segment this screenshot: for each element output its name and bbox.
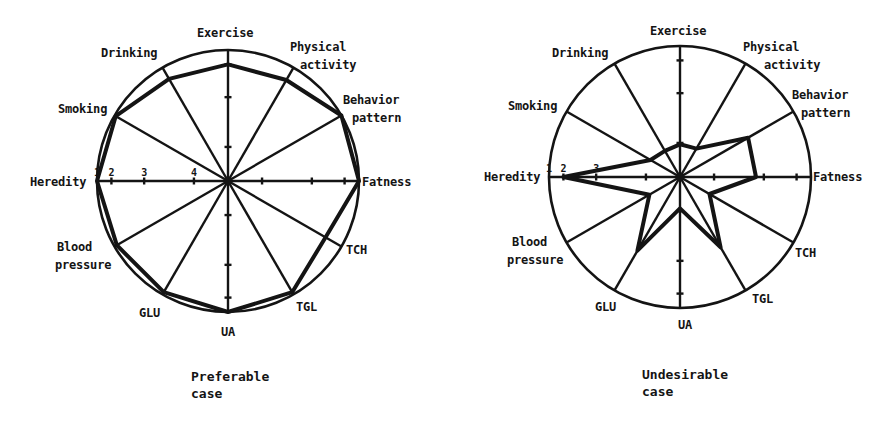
axis-label: TGL [296, 300, 317, 314]
spoke-behavior-pattern [228, 116, 341, 182]
axis-label-line-2: pattern [801, 106, 850, 120]
spoke-smoking [115, 116, 228, 182]
center-hub [676, 173, 685, 182]
axis-label: Behavior [343, 93, 399, 107]
axis-label: Physical [290, 40, 346, 54]
scale-tick-label: 4 [191, 167, 197, 178]
caption-line-2: case [642, 384, 673, 399]
scale-tick-label: 2 [560, 163, 566, 174]
caption-undesirable: Undesirable case [642, 367, 728, 399]
axis-label: Heredity [484, 170, 540, 184]
axis-label: Fatness [813, 170, 862, 184]
axis-label-line-2: activity [300, 58, 356, 72]
data-polygon [563, 138, 756, 251]
axis-label: Exercise [197, 26, 253, 40]
axis-label-line-2: pattern [352, 111, 401, 125]
spoke-blood-pressure [567, 177, 680, 243]
caption-line-1: Undesirable [642, 367, 728, 382]
axis-label: Blood [512, 235, 547, 249]
scale-tick-label: 3 [141, 167, 147, 178]
spoke-tgl [228, 181, 294, 294]
caption-line-1: Preferable [191, 369, 269, 384]
axis-label: TCH [346, 243, 367, 257]
caption-line-2: case [191, 386, 222, 401]
axis-label-line-2: pressure [507, 253, 563, 267]
axis-label: GLU [595, 300, 616, 314]
spoke-drinking [163, 68, 229, 181]
radar-chart-undesirable: 123ExercisePhysicalactivityBehaviorpatte… [484, 24, 862, 332]
spoke-physical-activity [680, 64, 746, 177]
spoke-glu [163, 181, 229, 294]
scale-tick-label: 1 [546, 163, 552, 174]
axis-label: Blood [57, 240, 92, 254]
center-hub [224, 177, 233, 186]
axis-label: Heredity [30, 175, 86, 189]
radar-chart-figure: 1234ExercisePhysicalactivityBehaviorpatt… [0, 0, 888, 423]
axis-label-line-2: activity [764, 58, 820, 72]
spoke-blood-pressure [115, 181, 228, 247]
axis-label: Behavior [792, 88, 848, 102]
axis-label: Fatness [362, 175, 411, 189]
axis-label: UA [678, 318, 693, 332]
axis-label: TCH [795, 246, 816, 260]
axis-label: Physical [743, 40, 799, 54]
axis-label: Drinking [552, 46, 608, 60]
axis-label: Drinking [101, 46, 157, 60]
spoke-physical-activity [228, 68, 294, 181]
scale-tick-label: 2 [108, 167, 114, 178]
axis-label: UA [221, 325, 236, 339]
radar-chart-preferable: 1234ExercisePhysicalactivityBehaviorpatt… [30, 26, 411, 339]
axis-label: GLU [139, 306, 160, 320]
axis-label: Smoking [508, 99, 557, 113]
axis-label: Exercise [650, 24, 706, 38]
axis-label: Smoking [58, 102, 107, 116]
spoke-tch [680, 177, 793, 243]
spoke-behavior-pattern [680, 112, 793, 178]
caption-preferable: Preferable case [191, 369, 269, 401]
axis-label: TGL [752, 292, 773, 306]
axis-label-line-2: pressure [55, 258, 111, 272]
